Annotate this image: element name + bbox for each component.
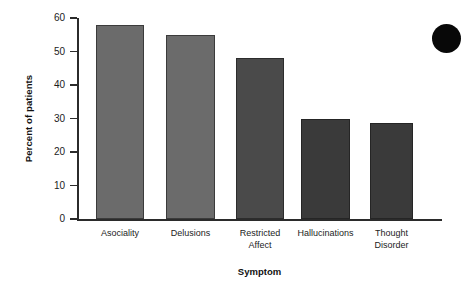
y-axis-tick-label: 40 — [35, 80, 65, 90]
bar-asociality — [96, 25, 144, 219]
y-axis-tick — [70, 118, 77, 119]
x-axis-label-delusions: Delusions — [151, 228, 231, 240]
bar-chart-figure: Percent of patients 0102030405060 Asocia… — [0, 0, 466, 291]
y-axis-tick-label: 10 — [35, 181, 65, 191]
y-axis-tick — [70, 185, 77, 186]
y-axis-tick — [70, 17, 77, 18]
x-axis-line — [77, 219, 442, 221]
x-axis-label-line: Asociality — [80, 228, 160, 240]
y-axis-title: Percent of patients — [23, 54, 34, 184]
bar-thought-disorder — [370, 123, 413, 219]
x-axis-label-line: Delusions — [151, 228, 231, 240]
x-axis-label-line: Affect — [220, 240, 300, 252]
corner-dot-marker — [432, 24, 461, 53]
x-axis-title: Symptom — [77, 266, 442, 277]
y-axis-tick-label: 20 — [35, 147, 65, 157]
y-axis-tick — [70, 218, 77, 219]
y-axis-tick — [70, 51, 77, 52]
x-axis-label-asociality: Asociality — [80, 228, 160, 240]
y-axis-tick — [70, 84, 77, 85]
y-axis-tick — [70, 151, 77, 152]
x-axis-label-line: Thought — [352, 228, 432, 240]
y-axis-tick-label: 30 — [35, 114, 65, 124]
y-axis-line — [77, 18, 79, 220]
bar-delusions — [166, 35, 215, 219]
bar-hallucinations — [301, 119, 350, 220]
y-axis-tick-label: 60 — [35, 13, 65, 23]
y-axis-tick-label: 0 — [35, 214, 65, 224]
y-axis-tick-label: 50 — [35, 47, 65, 57]
bar-restricted-affect — [236, 58, 284, 219]
x-axis-label-line: Disorder — [352, 240, 432, 252]
x-axis-label-thought-disorder: ThoughtDisorder — [352, 228, 432, 251]
